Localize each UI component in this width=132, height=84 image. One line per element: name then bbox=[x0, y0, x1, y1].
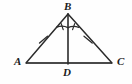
segment-side-AB bbox=[26, 14, 68, 63]
vertex-label-A: A bbox=[14, 56, 21, 67]
vertex-label-B: B bbox=[64, 1, 71, 12]
vertex-label-D: D bbox=[63, 67, 71, 78]
segment-side-BC bbox=[68, 14, 112, 63]
vertex-label-C: C bbox=[117, 56, 124, 67]
geometry-figure: B A C D bbox=[0, 0, 132, 84]
